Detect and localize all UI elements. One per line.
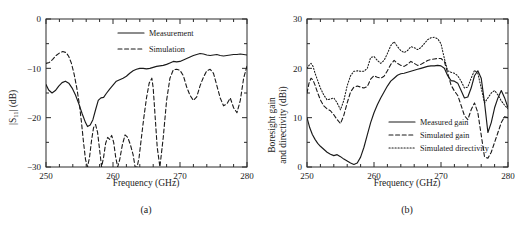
panel-b-y-axis-label-line2: and directivity (dBi)	[278, 86, 289, 164]
panel-a: |S11| (dB) −30−20−100 250260270280 Measu…	[0, 0, 261, 230]
figure-container: |S11| (dB) −30−20−100 250260270280 Measu…	[0, 0, 522, 230]
panel-a-svg: |S11| (dB) −30−20−100 250260270280 Measu…	[0, 0, 261, 230]
panel-a-caption: (a)	[140, 204, 151, 216]
panel-a-plot-frame	[46, 19, 247, 167]
panel-b-caption: (b)	[401, 204, 413, 216]
b-legend-label-3: Simulated directivity	[420, 144, 490, 153]
panel-b: Boresight gain and directivity (dBi) 010…	[261, 0, 522, 230]
b-x-tick: 250	[300, 171, 314, 181]
panel-a-curves	[46, 52, 247, 167]
a-legend-label-1: Measurement	[149, 29, 194, 38]
a-legend-label-2: Simulation	[149, 45, 185, 54]
panel-a-x-axis-label: Frequency (GHz)	[113, 178, 180, 189]
b-y-tick: 10	[293, 113, 303, 123]
b-series-3	[307, 37, 508, 110]
svg-text:|S11| (dB): |S11| (dB)	[8, 90, 19, 125]
panel-b-legend: Measured gainSimulated gainSimulated dir…	[389, 118, 490, 153]
b-x-tick: 280	[501, 171, 515, 181]
panel-a-y-tick-labels: −30−20−100	[27, 14, 42, 172]
b-legend-label-2: Simulated gain	[420, 131, 469, 140]
panel-b-y-axis-label-line1: Boresight gain	[267, 97, 277, 153]
a-y-tick: −20	[27, 113, 42, 123]
b-legend-label-1: Measured gain	[420, 118, 468, 127]
b-y-tick: 20	[293, 64, 303, 74]
a-y-tick: 0	[37, 14, 42, 24]
panel-b-svg: Boresight gain and directivity (dBi) 010…	[261, 0, 522, 230]
a-x-tick: 250	[39, 171, 53, 181]
panel-a-legend: MeasurementSimulation	[118, 29, 194, 54]
panel-b-x-axis-label: Frequency (GHz)	[374, 178, 441, 189]
b-y-tick: 30	[293, 14, 303, 24]
a-x-tick: 280	[240, 171, 254, 181]
panel-b-y-tick-labels: 0102030	[293, 14, 303, 172]
panel-a-y-axis-label: |S11| (dB)	[8, 90, 19, 125]
a-y-tick: −10	[27, 64, 42, 74]
panel-a-tick-marks	[46, 19, 247, 167]
a-series-1	[46, 54, 247, 127]
